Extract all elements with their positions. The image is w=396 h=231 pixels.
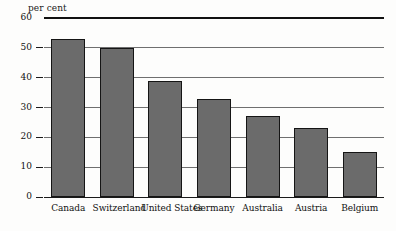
bar-switzerland (100, 48, 134, 197)
y-tick-mark-0 (36, 197, 43, 198)
y-tick-label-0: 0 (10, 191, 32, 201)
bar-australia (246, 116, 280, 197)
bar-belgium (343, 152, 377, 197)
gridline-40 (44, 77, 384, 78)
plot-area (44, 18, 384, 197)
chart-top-rule (44, 17, 384, 19)
x-axis-label-belgium: Belgium (335, 203, 384, 213)
y-tick-mark-40 (36, 77, 43, 78)
x-axis-label-germany: Germany (190, 203, 239, 213)
y-tick-label-10: 10 (10, 161, 32, 171)
x-axis-label-switzerland: Switzerland (93, 203, 142, 213)
bar-germany (197, 99, 231, 197)
gridline-50 (44, 47, 384, 48)
y-axis-unit-label: per cent (28, 3, 67, 13)
y-tick-mark-50 (36, 47, 43, 48)
y-tick-label-50: 50 (10, 42, 32, 52)
x-axis-label-canada: Canada (44, 203, 93, 213)
bar-united-states (148, 81, 182, 197)
y-tick-label-60: 60 (10, 12, 32, 22)
x-axis-label-australia: Australia (238, 203, 287, 213)
bar-canada (51, 39, 85, 197)
bar-chart: per cent 0102030405060 CanadaSwitzerland… (0, 0, 396, 231)
y-tick-mark-20 (36, 137, 43, 138)
bar-austria (294, 128, 328, 197)
x-axis-label-austria: Austria (287, 203, 336, 213)
y-tick-mark-10 (36, 167, 43, 168)
y-tick-mark-30 (36, 107, 43, 108)
y-tick-label-20: 20 (10, 131, 32, 141)
x-axis-label-united-states: United States (141, 203, 190, 213)
y-tick-label-30: 30 (10, 102, 32, 112)
y-tick-label-40: 40 (10, 72, 32, 82)
